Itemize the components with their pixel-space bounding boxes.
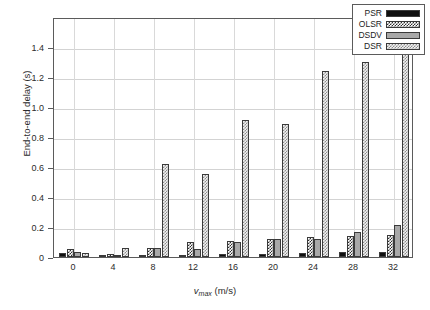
bar-dsr-24: [322, 71, 329, 257]
bar-dsdv-4: [114, 255, 121, 257]
legend-label: DSR: [356, 41, 382, 51]
bar-dsr-4: [122, 248, 129, 257]
legend-swatch-dsdv: [386, 32, 420, 39]
y-tick-label: 0.6: [31, 164, 44, 173]
gridline-horizontal: [54, 199, 412, 200]
bar-dsr-16: [242, 120, 249, 257]
bar-dsdv-0: [74, 252, 81, 257]
x-tick-label: 8: [138, 262, 168, 272]
legend-item-dsdv: DSDV: [356, 30, 420, 40]
x-tick-label: 28: [338, 262, 368, 272]
y-tick-label: 0.8: [31, 134, 44, 143]
bar-dsr-28: [362, 62, 369, 257]
bar-psr-4: [99, 255, 106, 257]
bar-olsr-16: [227, 241, 234, 258]
legend-item-psr: PSR: [356, 8, 420, 18]
legend-swatch-olsr: [386, 21, 420, 28]
bar-olsr-12: [187, 242, 194, 257]
bar-olsr-24: [307, 237, 314, 257]
y-tick-mark: [48, 258, 53, 259]
bar-psr-32: [379, 252, 386, 257]
bar-psr-20: [259, 254, 266, 257]
x-tick-label: 32: [378, 262, 408, 272]
bar-psr-0: [59, 253, 66, 258]
x-axis-title-subscript: max: [199, 290, 212, 297]
x-axis-title-units: (m/s): [212, 285, 236, 296]
bar-psr-12: [179, 255, 186, 257]
bar-psr-16: [219, 254, 226, 257]
gridline-vertical: [154, 19, 155, 257]
gridline-vertical: [74, 19, 75, 257]
bar-olsr-20: [267, 239, 274, 257]
bar-olsr-0: [67, 249, 74, 257]
bar-dsr-20: [282, 124, 289, 257]
y-axis-title: End-to-end delay (s): [21, 44, 32, 184]
y-tick-label: 0.2: [31, 224, 44, 233]
bar-psr-24: [299, 253, 306, 257]
x-tick-label: 12: [178, 262, 208, 272]
y-tick-label: 0: [39, 254, 44, 263]
gridline-vertical: [274, 19, 275, 257]
gridline-horizontal: [54, 169, 412, 170]
y-tick-label: 1.0: [31, 104, 44, 113]
bar-olsr-32: [387, 235, 394, 257]
bar-dsr-0: [82, 253, 89, 258]
bar-dsdv-12: [194, 249, 201, 257]
legend-swatch-dsr: [386, 43, 420, 50]
bar-olsr-8: [147, 248, 154, 257]
bar-olsr-28: [347, 236, 354, 257]
bar-dsr-32: [402, 45, 409, 257]
y-tick-label: 1.4: [31, 44, 44, 53]
legend-item-dsr: DSR: [356, 41, 420, 51]
bar-olsr-4: [107, 254, 114, 257]
x-tick-label: 0: [58, 262, 88, 272]
x-axis-title: vmax (m/s): [0, 285, 430, 297]
x-tick-label: 24: [298, 262, 328, 272]
gridline-vertical: [314, 19, 315, 257]
chart-legend: PSROLSRDSDVDSR: [352, 4, 425, 55]
chart-figure: End-to-end delay (s) vmax (m/s) 00.20.40…: [0, 0, 430, 310]
y-tick-label: 1.2: [31, 74, 44, 83]
bar-psr-28: [339, 252, 346, 257]
bar-dsdv-28: [354, 232, 361, 258]
legend-label: PSR: [356, 8, 382, 18]
legend-swatch-psr: [386, 10, 420, 17]
legend-item-olsr: OLSR: [356, 19, 420, 29]
bar-psr-8: [139, 255, 146, 257]
x-tick-label: 20: [258, 262, 288, 272]
bar-dsdv-20: [274, 239, 281, 257]
x-tick-label: 16: [218, 262, 248, 272]
gridline-horizontal: [54, 79, 412, 80]
gridline-horizontal: [54, 229, 412, 230]
gridline-horizontal: [54, 139, 412, 140]
bar-dsdv-8: [154, 248, 161, 257]
legend-label: OLSR: [356, 19, 382, 29]
bar-dsr-8: [162, 164, 169, 257]
bar-dsdv-24: [314, 239, 321, 257]
bar-dsdv-16: [234, 242, 241, 257]
gridline-horizontal: [54, 109, 412, 110]
gridline-vertical: [234, 19, 235, 257]
gridline-vertical: [194, 19, 195, 257]
x-tick-label: 4: [98, 262, 128, 272]
legend-label: DSDV: [356, 30, 382, 40]
bar-dsdv-32: [394, 225, 401, 257]
gridline-vertical: [114, 19, 115, 257]
y-tick-label: 0.4: [31, 194, 44, 203]
bar-dsr-12: [202, 174, 209, 257]
